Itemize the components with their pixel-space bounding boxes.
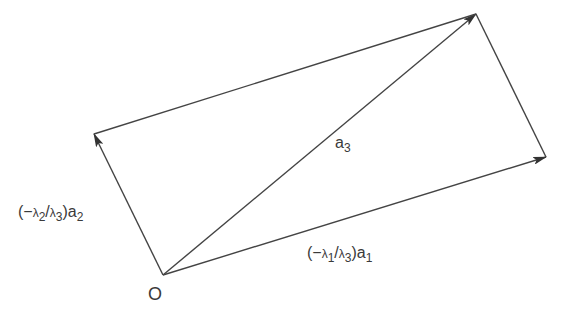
v1-sub-b: 3 xyxy=(345,251,352,265)
origin-label: O xyxy=(148,284,162,305)
v2-sub-c: 2 xyxy=(77,210,84,224)
edge-top xyxy=(94,14,476,134)
v2-sub-b: 3 xyxy=(56,210,63,224)
a3-base: a xyxy=(335,134,344,151)
v1-sub-c: 1 xyxy=(366,251,373,265)
v2-prefix: (− xyxy=(18,203,33,220)
a3-sub: 3 xyxy=(344,141,351,155)
a3-label: a3 xyxy=(335,134,351,155)
v2-label: (−λ2/λ3)a2 xyxy=(18,203,83,224)
edge-right xyxy=(476,14,546,157)
v1-prefix: (− xyxy=(307,244,322,261)
vector-a2 xyxy=(94,134,163,275)
v2-close: )a xyxy=(63,203,77,220)
vector-a3 xyxy=(163,14,476,275)
v1-close: )a xyxy=(352,244,366,261)
parallelogram-diagram xyxy=(0,0,561,311)
v1-label: (−λ1/λ3)a1 xyxy=(307,244,372,265)
